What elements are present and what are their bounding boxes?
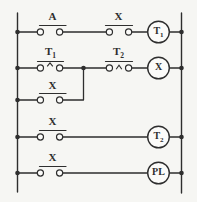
contact-label-x-rung4: X	[49, 152, 57, 166]
coil-label-t1: T1	[153, 26, 163, 39]
no-contact-symbol-x-branch	[37, 94, 66, 104]
label-text: X	[155, 61, 162, 72]
no-contact-symbol-x2	[37, 131, 66, 141]
label-sub: 2	[160, 136, 164, 144]
label-text: T	[153, 130, 160, 141]
contact-terminal	[37, 134, 43, 140]
timer-caret-icon	[47, 63, 53, 67]
label-text: A	[49, 10, 57, 22]
label-text: PL	[152, 166, 165, 177]
contact-terminal	[37, 170, 43, 176]
contact-terminal	[57, 97, 63, 103]
no-contact-symbol-x3	[37, 167, 66, 177]
contact-terminal	[57, 170, 63, 176]
contact-label-t2: T2	[113, 46, 124, 60]
label-text: X	[49, 79, 57, 91]
label-text: T	[153, 25, 160, 36]
junction-node	[15, 135, 20, 140]
contact-label-t1: T1	[45, 46, 56, 60]
contact-terminal	[106, 29, 112, 35]
junction-node	[179, 66, 184, 71]
no-contact-symbol-a	[37, 26, 66, 36]
contact-terminal	[106, 65, 112, 71]
junction-node	[179, 30, 184, 35]
coil-label-pl: PL	[152, 167, 165, 180]
label-text: X	[115, 10, 123, 22]
label-sub: 2	[120, 51, 124, 60]
coil-label-t2: T2	[153, 131, 163, 144]
timer-caret-icon	[116, 65, 122, 69]
junction-node	[15, 98, 20, 103]
junction-node	[179, 135, 184, 140]
coil-label-x: X	[155, 62, 162, 75]
junction-node	[15, 66, 20, 71]
contact-label-x-rung3: X	[49, 116, 57, 130]
contact-terminal	[57, 29, 63, 35]
contact-label-x-branch: X	[49, 80, 57, 94]
no-contact-symbol-x	[106, 26, 133, 36]
contact-label-a: A	[49, 11, 57, 25]
junction-node	[179, 171, 184, 176]
contact-terminal	[37, 65, 43, 71]
junction-node	[15, 30, 20, 35]
contact-terminal	[37, 29, 43, 35]
label-text: X	[49, 151, 57, 163]
label-sub: 1	[52, 51, 56, 60]
contact-terminal	[57, 134, 63, 140]
timed-contact-symbol-t2	[106, 62, 133, 72]
label-text: X	[49, 115, 57, 127]
contact-terminal	[126, 65, 132, 71]
contact-terminal	[37, 97, 43, 103]
contact-terminal	[57, 65, 63, 71]
timed-contact-symbol-t1	[37, 62, 63, 72]
label-sub: 1	[160, 31, 164, 39]
contact-label-x-rung1: X	[115, 11, 123, 25]
junction-node	[81, 66, 86, 71]
contact-terminal	[126, 29, 132, 35]
junction-node	[15, 171, 20, 176]
ladder-diagram-figure: A X T1 T2 X X X T1 X T2 PL	[0, 0, 197, 202]
ladder-diagram-canvas	[0, 0, 197, 202]
